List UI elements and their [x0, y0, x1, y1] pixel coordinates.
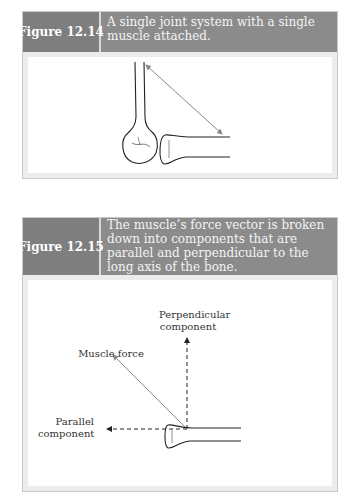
parallel-label: Parallel component — [38, 416, 94, 440]
figure-caption: The muscle’s force vector is broken down… — [101, 218, 337, 275]
muscle-force-vector — [113, 355, 187, 429]
figure-caption: A single joint system with a single musc… — [101, 12, 337, 52]
label-line: Parallel — [38, 416, 94, 428]
figure-label: Figure 12.14 — [23, 12, 101, 52]
perpendicular-label: Perpendicular component — [159, 309, 217, 333]
figure-12-15: Figure 12.15 The muscle’s force vector i… — [22, 217, 338, 492]
label-line: component — [38, 428, 94, 440]
forearm-bone — [165, 425, 241, 448]
muscle-force-label: Muscle force — [76, 348, 146, 360]
figure-header: Figure 12.14 A single joint system with … — [23, 12, 337, 52]
figure-illustration — [28, 57, 332, 173]
forearm-bone — [160, 135, 230, 164]
label-line: Perpendicular — [159, 309, 217, 321]
label-line: component — [159, 321, 217, 333]
figure-illustration: Perpendicular component Muscle force Par… — [28, 280, 332, 486]
figure-label: Figure 12.15 — [23, 218, 101, 275]
joint-diagram — [28, 57, 332, 173]
figure-12-14: Figure 12.14 A single joint system with … — [22, 11, 338, 179]
humerus-bone — [123, 62, 158, 163]
figure-header: Figure 12.15 The muscle’s force vector i… — [23, 218, 337, 275]
muscle-line — [146, 65, 222, 134]
